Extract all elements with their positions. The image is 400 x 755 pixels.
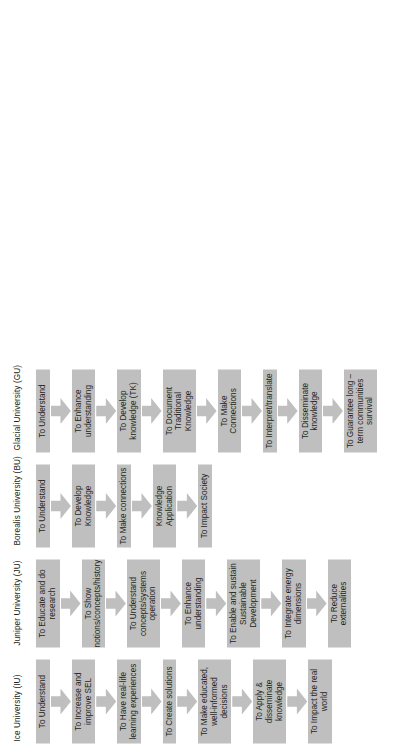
process-step-label: To Enhance understanding bbox=[74, 372, 93, 449]
column-header-bu: Borealis University (BU) bbox=[14, 464, 22, 545]
process-step-box: Knowledge Application bbox=[153, 464, 176, 547]
process-step-box: To Impact Society bbox=[198, 464, 212, 547]
process-step-label: To Develop Knowledge bbox=[74, 467, 93, 544]
process-step-label: To Reduce externalities bbox=[330, 562, 349, 644]
arrow-down-icon bbox=[60, 559, 82, 647]
process-step-label: Knowledge Application bbox=[155, 467, 174, 544]
process-step-label: To Enable and sustain Sustainable Develo… bbox=[229, 562, 258, 644]
arrow-down-icon bbox=[105, 559, 127, 647]
process-step-label: To Interpret/translate bbox=[265, 373, 275, 448]
column-header-ju: Juniper University (JU) bbox=[14, 559, 22, 645]
arrow-down-icon bbox=[260, 559, 282, 647]
process-step-box: To Create solutions bbox=[163, 659, 177, 743]
arrow-down-icon bbox=[95, 464, 117, 547]
process-step-label: To Document Traditional Knowledge bbox=[165, 372, 194, 449]
arrow-down-icon bbox=[141, 659, 163, 743]
process-step-box: To Enhance understanding bbox=[72, 369, 95, 452]
figure-columns: Ice University (IU)To UnderstandTo Incre… bbox=[0, 0, 400, 755]
process-step-box: To Show notions/concepts/history bbox=[82, 559, 105, 647]
arrow-down-icon bbox=[176, 464, 198, 547]
process-step-label: To Impact the real world bbox=[310, 662, 329, 740]
column-bu: Borealis University (BU)To UnderstandTo … bbox=[14, 458, 212, 553]
column-iu: Ice University (IU)To UnderstandTo Incre… bbox=[14, 653, 332, 749]
arrow-down-icon bbox=[196, 369, 218, 452]
step-sequence-gu: To UnderstandTo Enhance understandingTo … bbox=[36, 369, 377, 452]
process-step-box: To Develop knowledge (TK) bbox=[117, 369, 140, 452]
arrow-down-icon bbox=[141, 369, 163, 452]
process-step-label: To Create solutions bbox=[165, 666, 175, 736]
column-ju: Juniper University (JU)To Educate and do… bbox=[14, 553, 351, 653]
arrow-down-icon bbox=[205, 559, 227, 647]
arrow-down-icon bbox=[95, 369, 117, 452]
step-sequence-bu: To UnderstandTo Develop KnowledgeTo Make… bbox=[36, 464, 212, 547]
process-step-label: To Understand concepts/systems operation bbox=[129, 562, 158, 644]
process-step-label: To Understand bbox=[38, 674, 48, 727]
process-step-label: To Educate and do research bbox=[38, 562, 57, 644]
process-step-box: To Understand bbox=[36, 659, 50, 743]
arrow-down-icon bbox=[286, 659, 308, 743]
arrow-down-icon bbox=[277, 369, 299, 452]
process-step-box: To Disseminate knowledge bbox=[299, 369, 322, 452]
process-step-box: To Understand bbox=[36, 369, 50, 452]
process-step-box: To Enhance understanding bbox=[182, 559, 205, 647]
step-sequence-iu: To UnderstandTo Increase and improve SEL… bbox=[36, 659, 331, 743]
process-step-box: To Educate and do research bbox=[36, 559, 59, 647]
process-step-box: To Apply & disseminate knowledge bbox=[253, 659, 286, 743]
arrow-down-icon bbox=[95, 659, 117, 743]
process-step-label: To Increase and improve SEL bbox=[74, 662, 93, 740]
arrow-down-icon bbox=[306, 559, 328, 647]
process-step-box: To Make Connections bbox=[218, 369, 241, 452]
process-step-box: To Impact the real world bbox=[308, 659, 331, 743]
process-step-label: To Make Connections bbox=[220, 372, 239, 449]
arrow-down-icon bbox=[231, 659, 253, 743]
process-flow-figure: Ice University (IU)To UnderstandTo Incre… bbox=[0, 0, 400, 755]
process-step-box: To Make educated, well-informed decision… bbox=[198, 659, 231, 743]
step-sequence-ju: To Educate and do researchTo Show notion… bbox=[36, 559, 351, 647]
process-step-label: To Enhance understanding bbox=[184, 562, 203, 644]
process-step-label: To Integrate energy dimensions bbox=[284, 562, 303, 644]
column-header-gu: Glacial University (GU) bbox=[14, 369, 22, 450]
process-step-box: To Interpret/translate bbox=[263, 369, 277, 452]
column-header-iu: Ice University (IU) bbox=[14, 659, 22, 741]
process-step-box: To Understand concepts/systems operation bbox=[127, 559, 160, 647]
process-step-box: To Make connections bbox=[117, 464, 131, 547]
process-step-label: To Show notions/concepts/history bbox=[84, 559, 103, 647]
process-step-label: To Apply & disseminate knowledge bbox=[255, 662, 284, 740]
process-step-box: To Document Traditional Knowledge bbox=[163, 369, 196, 452]
process-step-label: To Understand bbox=[38, 479, 48, 532]
process-step-label: To Have real-life learning experiences bbox=[119, 662, 138, 740]
process-step-label: To Make educated, well-informed decision… bbox=[200, 662, 229, 740]
process-step-box: To Increase and improve SEL bbox=[72, 659, 95, 743]
process-step-box: To Have real-life learning experiences bbox=[117, 659, 140, 743]
column-gu: Glacial University (GU)To UnderstandTo E… bbox=[14, 363, 377, 458]
process-step-box: To Develop Knowledge bbox=[72, 464, 95, 547]
process-step-box: To Integrate energy dimensions bbox=[282, 559, 305, 647]
process-step-label: To Make connections bbox=[119, 467, 129, 544]
arrow-down-icon bbox=[176, 659, 198, 743]
process-step-box: To Guarantee long – term communities sur… bbox=[344, 369, 377, 452]
arrow-down-icon bbox=[241, 369, 263, 452]
arrow-down-icon bbox=[50, 464, 72, 547]
process-step-label: To Impact Society bbox=[200, 473, 210, 538]
process-step-box: To Reduce externalities bbox=[328, 559, 351, 647]
arrow-down-icon bbox=[131, 464, 153, 547]
arrow-down-icon bbox=[50, 369, 72, 452]
process-step-box: To Understand bbox=[36, 464, 50, 547]
arrow-down-icon bbox=[322, 369, 344, 452]
process-step-label: To Understand bbox=[38, 384, 48, 437]
process-step-label: To Develop knowledge (TK) bbox=[119, 372, 138, 449]
process-step-box: To Enable and sustain Sustainable Develo… bbox=[227, 559, 260, 647]
process-step-label: To Guarantee long – term communities sur… bbox=[346, 372, 375, 449]
arrow-down-icon bbox=[50, 659, 72, 743]
arrow-down-icon bbox=[160, 559, 182, 647]
process-step-label: To Disseminate knowledge bbox=[301, 372, 320, 449]
